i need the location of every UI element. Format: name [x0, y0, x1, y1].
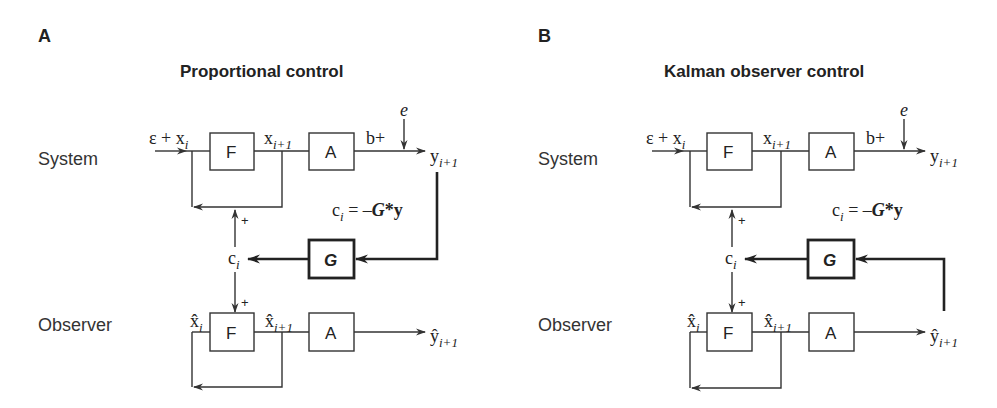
yhat-next-label: ŷi+1 [930, 326, 958, 350]
a-block-label: A [325, 143, 337, 162]
input-label: ε + xi [646, 128, 686, 152]
row-label-observer: Observer [38, 315, 112, 335]
yhat-next-label: ŷi+1 [430, 326, 458, 350]
g-block-label: G [324, 251, 337, 270]
y-next-label: yi+1 [930, 146, 958, 170]
row-label-system: System [38, 149, 98, 169]
x-next-label: xi+1 [264, 128, 292, 152]
panel-a: A Proportional control System Observer ε… [38, 26, 458, 387]
b-plus-label: b+ [366, 128, 385, 148]
control-law: ci = –G*y [332, 200, 403, 224]
f-block-label: F [723, 143, 733, 162]
observer-row: x̂i F x̂i+1 A ŷi+1 [687, 311, 958, 388]
f-block-observer-label: F [723, 324, 733, 343]
row-label-observer: Observer [538, 315, 612, 335]
control-label: ci [725, 248, 737, 272]
panel-letter: A [38, 26, 51, 46]
plus-sign-bottom: + [738, 295, 746, 310]
y-next-label: yi+1 [430, 146, 458, 170]
system-row: ε + xi F xi+1 A b+ e yi+1 [149, 100, 458, 207]
a-block-label: A [825, 143, 837, 162]
control-law: ci = –G*y [832, 200, 903, 224]
a-block-observer-label: A [825, 324, 837, 343]
plus-sign-top: + [241, 213, 249, 228]
g-block-label: G [823, 251, 836, 270]
a-block-observer-label: A [325, 324, 337, 343]
plus-sign-top: + [738, 213, 746, 228]
plus-sign-bottom: + [241, 295, 249, 310]
noise-label: e [400, 100, 408, 120]
noise-label: e [900, 100, 908, 120]
f-block-observer-label: F [226, 324, 236, 343]
figure-canvas: A Proportional control System Observer ε… [0, 0, 997, 408]
panel-title: Kalman observer control [664, 62, 864, 81]
control-label: ci [228, 248, 240, 272]
f-block-label: F [226, 143, 236, 162]
panel-letter: B [538, 26, 551, 46]
system-row: ε + xi F xi+1 A b+ e yi+1 [646, 100, 958, 207]
b-plus-label: b+ [866, 128, 885, 148]
x-next-label: xi+1 [763, 128, 791, 152]
gain-feedback-path [856, 259, 944, 311]
observer-row: x̂i F x̂i+1 A ŷi+1 [190, 311, 458, 387]
input-label: ε + xi [149, 128, 189, 152]
panel-b: B Kalman observer control System Observe… [538, 26, 958, 388]
panel-title: Proportional control [180, 62, 343, 81]
row-label-system: System [538, 149, 598, 169]
